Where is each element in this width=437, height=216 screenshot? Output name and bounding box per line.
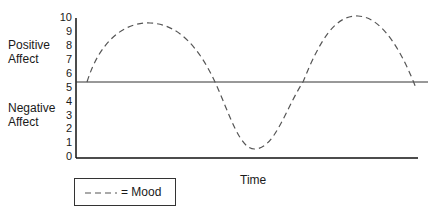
legend: = Mood: [74, 178, 176, 206]
legend-dash-icon: [83, 179, 123, 205]
legend-label: = Mood: [121, 185, 161, 199]
x-axis-label: Time: [240, 173, 266, 187]
chart-plot: [0, 0, 437, 216]
